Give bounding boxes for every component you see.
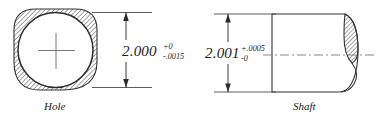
shaft-upper-tolerance: +.0005 (241, 44, 265, 53)
hole-view: 2.000 +0 -.0015 Hole (10, 5, 184, 112)
shaft-nominal-value: 2.001 (205, 45, 240, 61)
hole-upper-tolerance: +0 (163, 42, 173, 51)
hole-label: Hole (43, 100, 66, 112)
shaft-lower-tolerance: -0 (241, 54, 248, 63)
hole-lower-tolerance: -.0015 (163, 52, 184, 61)
shaft-dimension-text: 2.001 +.0005 -0 (205, 44, 265, 63)
broken-out-section-icon (344, 14, 358, 63)
hole-nominal-value: 2.000 (122, 43, 157, 59)
technical-drawing: 2.000 +0 -.0015 Hole (0, 0, 379, 122)
hole-dimension-text: 2.000 +0 -.0015 (122, 42, 184, 61)
arrow-up-down-icon (123, 13, 129, 22)
shaft-view: 2.001 +.0005 -0 Shaft (205, 14, 374, 112)
shaft-label: Shaft (293, 100, 317, 112)
drawing-canvas: 2.000 +0 -.0015 Hole (0, 0, 379, 122)
